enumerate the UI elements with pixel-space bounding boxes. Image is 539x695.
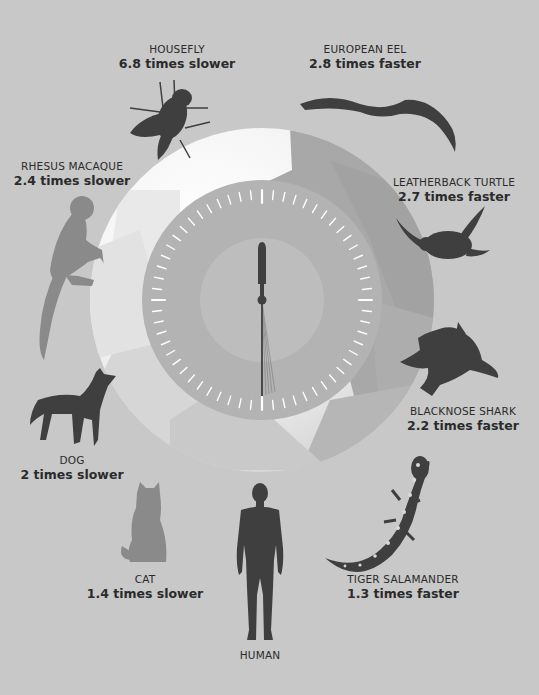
minute-hand — [258, 242, 266, 284]
cat-icon — [121, 482, 166, 562]
animal-name: DOG — [20, 454, 123, 467]
time-rate: 6.8 times slower — [119, 56, 236, 72]
label-housefly: HOUSEFLY 6.8 times slower — [119, 43, 236, 72]
label-leatherback-turtle: LEATHERBACK TURTLE 2.7 times faster — [393, 176, 515, 205]
label-human: HUMAN — [240, 649, 281, 662]
label-european-eel: EUROPEAN EEL 2.8 times faster — [309, 43, 421, 72]
animal-name: EUROPEAN EEL — [309, 43, 421, 56]
human-icon — [237, 483, 284, 640]
animal-name: HUMAN — [240, 649, 281, 662]
animal-name: HOUSEFLY — [119, 43, 236, 56]
time-rate: 1.3 times faster — [347, 586, 459, 602]
infographic-stage: HOUSEFLY 6.8 times slower EUROPEAN EEL 2… — [0, 0, 539, 695]
animal-name: CAT — [87, 573, 204, 586]
label-rhesus-macaque: RHESUS MACAQUE 2.4 times slower — [14, 160, 131, 189]
time-rate: 2.8 times faster — [309, 56, 421, 72]
animal-name: LEATHERBACK TURTLE — [393, 176, 515, 189]
time-rate: 2 times slower — [20, 467, 123, 483]
animal-name: TIGER SALAMANDER — [347, 573, 459, 586]
time-rate: 1.4 times slower — [87, 586, 204, 602]
animal-name: BLACKNOSE SHARK — [407, 405, 519, 418]
animal-name: RHESUS MACAQUE — [14, 160, 131, 173]
label-dog: DOG 2 times slower — [20, 454, 123, 483]
time-rate: 2.7 times faster — [393, 189, 515, 205]
tiger-salamander-icon — [325, 456, 430, 572]
label-cat: CAT 1.4 times slower — [87, 573, 204, 602]
label-tiger-salamander: TIGER SALAMANDER 1.3 times faster — [347, 573, 459, 602]
time-rate: 2.4 times slower — [14, 173, 131, 189]
dog-icon — [30, 368, 116, 446]
label-blacknose-shark: BLACKNOSE SHARK 2.2 times faster — [407, 405, 519, 434]
time-rate: 2.2 times faster — [407, 418, 519, 434]
